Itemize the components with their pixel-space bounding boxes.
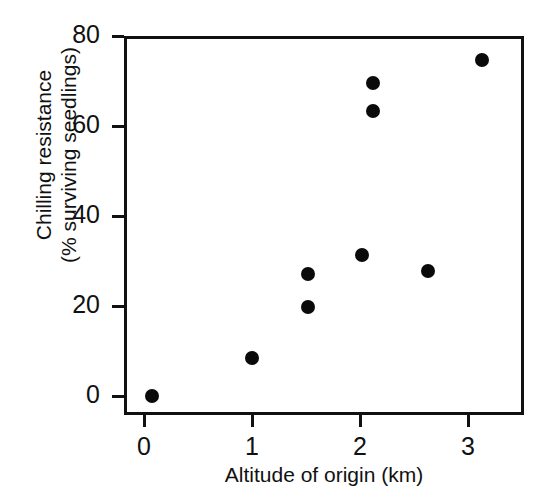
y-axis-tick (112, 395, 124, 398)
data-point (301, 300, 315, 314)
data-point (421, 264, 435, 278)
scatter-plot-figure: 020406080 0123 Chilling resistance (% su… (0, 0, 549, 500)
x-axis-tick-label: 2 (330, 432, 390, 460)
plot-data-area (124, 36, 524, 415)
data-point (301, 267, 315, 281)
data-point (475, 53, 489, 67)
x-axis-tick (467, 415, 470, 427)
y-axis-tick (112, 215, 124, 218)
x-axis-tick-label: 3 (438, 432, 498, 460)
data-point (366, 76, 380, 90)
y-axis-title-line-1: Chilling resistance (31, 0, 56, 315)
y-axis-title: Chilling resistance (% surviving seedlin… (31, 0, 81, 315)
y-axis-tick (112, 125, 124, 128)
x-axis-tick (251, 415, 254, 427)
data-point (145, 389, 159, 403)
y-axis-tick (112, 305, 124, 308)
x-axis-tick-label: 0 (114, 432, 174, 460)
x-axis-tick-label: 1 (222, 432, 282, 460)
data-point (245, 351, 259, 365)
x-axis-tick (359, 415, 362, 427)
data-point (366, 104, 380, 118)
y-axis-tick (112, 35, 124, 38)
x-axis-title: Altitude of origin (km) (124, 463, 524, 487)
y-axis-tick-label: 0 (38, 382, 100, 407)
data-point (355, 248, 369, 262)
y-axis-title-line-2: (% surviving seedlings) (56, 0, 81, 315)
x-axis-tick (143, 415, 146, 427)
